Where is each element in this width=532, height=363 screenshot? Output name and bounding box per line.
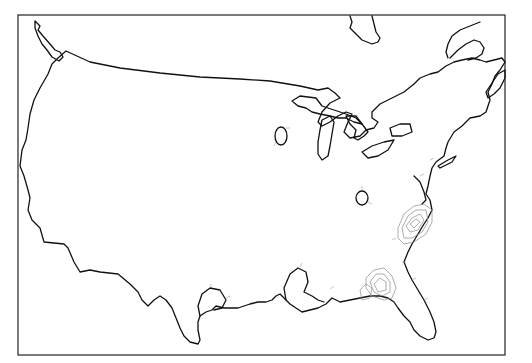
lake-erie	[362, 140, 394, 158]
map-container: Contiguous United States	[0, 0, 532, 363]
lake-superior	[292, 96, 362, 124]
vancouver-island	[35, 21, 63, 61]
louisiana-bay	[284, 268, 324, 302]
lake-michigan	[318, 116, 334, 160]
texas-bay	[198, 288, 226, 316]
map-frame	[18, 15, 505, 355]
chesapeake-bay	[414, 176, 426, 204]
gaspe-peninsula	[450, 40, 484, 60]
inland-contour-ring-2	[356, 191, 368, 205]
map-canvas	[0, 0, 532, 363]
lake-ontario	[390, 124, 412, 136]
contour-cluster-north-florida	[360, 268, 396, 300]
james-bay-outline	[350, 16, 380, 44]
coastline-ticks	[210, 128, 434, 300]
us-outline	[20, 51, 505, 344]
inland-contour-ring-1	[275, 127, 287, 145]
